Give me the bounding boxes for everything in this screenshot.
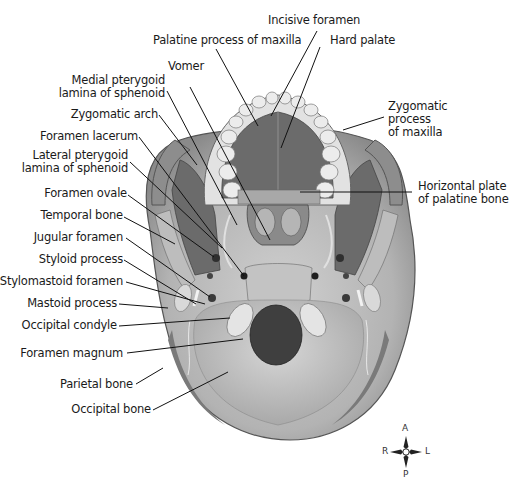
foramen-lacerum-right: [312, 273, 319, 280]
jugular-foramen-right: [342, 294, 350, 302]
foramen-ovale-left: [212, 254, 220, 262]
label-vomer: Vomer: [168, 60, 204, 73]
compass-anterior: A: [402, 423, 408, 433]
label-jugular-foramen: Jugular foramen: [34, 231, 123, 244]
compass-left: L: [425, 446, 430, 456]
jugular-foramen-left: [208, 294, 216, 302]
foramen-magnum-shape: [250, 305, 302, 365]
label-temporal-bone: Temporal bone: [41, 209, 123, 222]
skull-inferior-view-figure: Incisive foramen Palatine process of max…: [0, 0, 520, 492]
label-foramen-ovale: Foramen ovale: [44, 187, 127, 200]
label-horizontal-plate-of-palatine-bone: Horizontal plate of palatine bone: [418, 180, 509, 206]
label-mastoid-process: Mastoid process: [27, 297, 117, 310]
orientation-compass: [390, 436, 422, 468]
compass-posterior: P: [403, 469, 408, 479]
label-foramen-magnum: Foramen magnum: [20, 347, 123, 360]
label-occipital-condyle: Occipital condyle: [22, 319, 117, 332]
label-stylomastoid-foramen: Stylomastoid foramen: [0, 275, 123, 288]
label-occipital-bone: Occipital bone: [71, 403, 151, 416]
label-hard-palate: Hard palate: [330, 34, 395, 47]
label-palatine-process-of-maxilla: Palatine process of maxilla: [153, 34, 301, 47]
label-foramen-lacerum: Foramen lacerum: [40, 130, 138, 143]
label-parietal-bone: Parietal bone: [60, 378, 133, 391]
label-styloid-process: Styloid process: [39, 253, 123, 266]
label-lateral-pterygoid-lamina: Lateral pterygoid lamina of sphenoid: [22, 149, 128, 175]
foramen-ovale-right: [336, 254, 344, 262]
label-zygomatic-arch: Zygomatic arch: [71, 108, 158, 121]
compass-right: R: [382, 446, 388, 456]
basilar-part: [245, 264, 312, 307]
label-medial-pterygoid-lamina: Medial pterygoid lamina of sphenoid: [59, 74, 165, 100]
label-incisive-foramen: Incisive foramen: [268, 14, 360, 27]
label-zygomatic-process-of-maxilla: Zygomatic process of maxilla: [388, 100, 448, 139]
